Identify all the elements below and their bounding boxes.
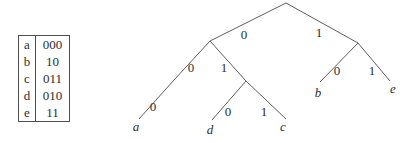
edge-label-n00-left: 0	[150, 99, 157, 114]
edge-label-n1-left: 0	[334, 63, 341, 78]
edge-label-root-left: 0	[241, 27, 248, 42]
edge-label-n1-right: 1	[369, 63, 376, 78]
tree-edge-n0-right	[210, 41, 246, 81]
edge-label-n01-left: 0	[225, 104, 232, 119]
leaf-label-b: b	[315, 85, 322, 100]
edge-label-n0-right: 1	[221, 60, 228, 75]
edge-label-n0-left: 0	[188, 60, 195, 75]
tree-edge-root-left	[210, 3, 286, 41]
edge-label-n01-right: 1	[261, 104, 268, 119]
edge-label-root-right: 1	[316, 25, 323, 40]
huffman-tree-diagram: 0 1 0 1 0 0 1 0 1 a d c b e	[0, 0, 411, 143]
leaf-label-a: a	[133, 119, 140, 134]
leaf-label-c: c	[280, 119, 286, 134]
figure-canvas: a 000 b 10 c 011 d 010 e 11 0	[0, 0, 411, 143]
tree-edge-n00-left	[139, 80, 174, 119]
leaf-label-e: e	[390, 81, 396, 96]
leaf-label-d: d	[207, 122, 214, 137]
